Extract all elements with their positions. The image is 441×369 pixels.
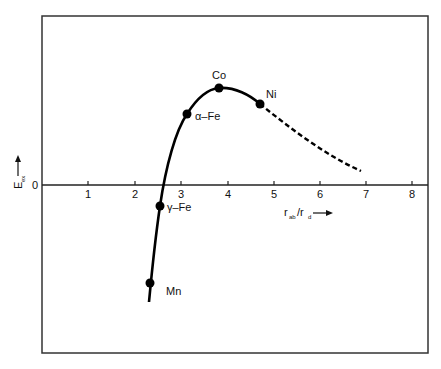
arrow-right-icon [326, 210, 333, 216]
point-ni [256, 100, 265, 109]
svg-text:6: 6 [317, 188, 323, 200]
y-axis-label: E ex [12, 155, 26, 189]
point-mn [146, 279, 155, 288]
x-axis-label: r ab /r d [284, 206, 333, 220]
point-gamma-fe [156, 202, 165, 211]
svg-text:7: 7 [363, 188, 369, 200]
svg-text:ab: ab [289, 214, 296, 220]
svg-text:3: 3 [178, 188, 184, 200]
svg-text:Ni: Ni [266, 88, 276, 100]
point-alpha-fe [183, 110, 192, 119]
curve-dashed [260, 104, 361, 171]
svg-text:d: d [308, 214, 311, 220]
arrow-up-icon [15, 155, 21, 162]
svg-text:γ–Fe: γ–Fe [167, 201, 191, 213]
y-zero-label: 0 [32, 179, 38, 191]
svg-text:4: 4 [225, 188, 231, 200]
svg-text:1: 1 [85, 188, 91, 200]
svg-text:8: 8 [409, 188, 415, 200]
svg-text:/r: /r [297, 206, 304, 218]
svg-text:α–Fe: α–Fe [195, 110, 220, 122]
svg-text:5: 5 [271, 188, 277, 200]
svg-text:Co: Co [212, 69, 226, 81]
svg-text:Mn: Mn [166, 285, 181, 297]
point-co [215, 84, 224, 93]
svg-text:ex: ex [20, 176, 26, 182]
bethe-slater-chart: 1 2 3 4 5 6 7 8 0 E ex r ab /r d Mn γ–Fe [0, 0, 441, 369]
x-tick-labels: 1 2 3 4 5 6 7 8 [85, 188, 415, 200]
svg-text:2: 2 [132, 188, 138, 200]
svg-text:r: r [284, 206, 288, 218]
